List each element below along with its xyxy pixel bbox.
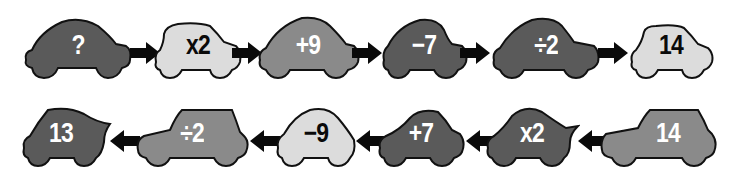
car-label: −9 xyxy=(280,118,351,149)
arrow-right-icon xyxy=(460,42,490,64)
car-label: −7 xyxy=(387,30,462,61)
car-bottom-6: 14 xyxy=(598,100,718,172)
car-label: ÷2 xyxy=(498,30,593,61)
car-top-4: −7 xyxy=(380,12,468,84)
car-top-3: +9 xyxy=(256,12,360,84)
car-top-1: ? xyxy=(22,12,134,84)
bottom-row: 13 ÷2 −9 +7 x2 14 xyxy=(0,100,736,176)
arrow-right-icon xyxy=(352,42,382,64)
car-label: 14 xyxy=(626,118,711,149)
car-label: ÷2 xyxy=(143,118,242,149)
car-label: ? xyxy=(30,30,125,61)
car-label: x2 xyxy=(159,30,237,61)
arrow-right-icon xyxy=(598,42,628,64)
car-bottom-3: −9 xyxy=(274,100,358,172)
car-label: +9 xyxy=(264,30,352,61)
car-top-2: x2 xyxy=(152,12,244,84)
car-label: +7 xyxy=(383,118,460,149)
car-top-5: ÷2 xyxy=(490,12,602,84)
car-label: x2 xyxy=(491,118,573,149)
car-label: 14 xyxy=(634,30,707,61)
top-row: ? x2 +9 −7 ÷2 14 xyxy=(0,12,736,92)
car-bottom-4: +7 xyxy=(376,100,466,172)
car-label: 13 xyxy=(18,118,105,149)
car-top-6: 14 xyxy=(628,12,714,84)
car-bottom-1: 13 xyxy=(20,100,112,172)
car-bottom-5: x2 xyxy=(484,100,580,172)
car-bottom-2: ÷2 xyxy=(134,100,250,172)
